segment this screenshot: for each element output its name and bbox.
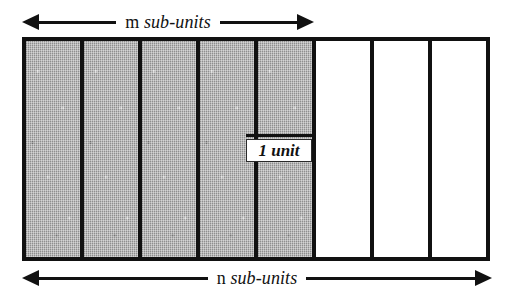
unit-callout-leader-line [246, 134, 312, 137]
dimension-line-right [220, 21, 297, 24]
arrow-left-icon [22, 270, 39, 286]
bottom-dimension-variable: n [217, 268, 226, 288]
subunit-cell-2 [84, 41, 142, 257]
subunit-cell-1 [26, 41, 84, 257]
dimension-line-left [39, 21, 116, 24]
top-dimension-units: sub-units [144, 12, 211, 32]
dimension-line-left [39, 277, 208, 280]
unit-callout-label: 1 unit [246, 139, 312, 162]
top-dimension-label: m sub-units [116, 13, 220, 31]
subunit-cell-7 [374, 41, 432, 257]
arrow-left-icon [22, 14, 39, 30]
bottom-dimension-label: n sub-units [208, 269, 307, 287]
bottom-dimension-units: sub-units [230, 268, 297, 288]
unit-subunit-diagram: m sub-units 1 unit n sub-units [0, 0, 512, 300]
subunit-cell-3 [142, 41, 200, 257]
top-dimension-annotation: m sub-units [22, 7, 314, 37]
arrow-right-icon [297, 14, 314, 30]
unit-callout: 1 unit [246, 134, 312, 162]
bottom-dimension-annotation: n sub-units [22, 263, 492, 293]
subunit-cell-6 [316, 41, 374, 257]
dimension-line-right [306, 277, 475, 280]
top-dimension-variable: m [125, 12, 139, 32]
arrow-right-icon [475, 270, 492, 286]
subunit-cell-8 [432, 41, 486, 257]
